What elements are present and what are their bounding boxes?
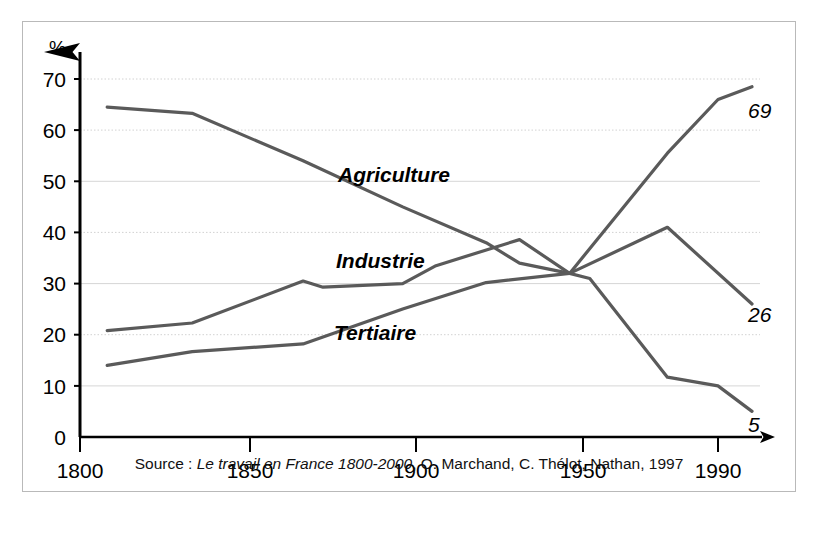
line-chart: % 70 60 50 40 30 20 10 0 1800 1850 1900 … — [0, 0, 820, 533]
y-tick-label-30: 30 — [43, 272, 66, 295]
end-label-tertiaire: 69 — [748, 99, 772, 122]
y-tick-label-60: 60 — [43, 119, 66, 142]
y-tick-label-70: 70 — [43, 68, 66, 91]
y-tick-label-0: 0 — [54, 426, 66, 449]
series-line-tertiaire — [107, 87, 752, 366]
x-axis-arrowhead — [760, 431, 775, 443]
series-label-industrie: Industrie — [336, 249, 425, 272]
source-suffix: , O. Marchand, C. Thélot, Nathan, 1997 — [412, 455, 683, 472]
y-axis-unit-label: % — [49, 37, 66, 58]
y-tick-label-10: 10 — [43, 375, 66, 398]
series-label-agriculture: Agriculture — [337, 163, 450, 186]
source-note: Source : Le travail en France 1800-2000,… — [22, 455, 796, 473]
y-tick-label-40: 40 — [43, 221, 66, 244]
source-title: Le travail en France 1800-2000 — [197, 455, 412, 472]
series-label-tertiaire: Tertiaire — [334, 321, 416, 344]
figure-root: % 70 60 50 40 30 20 10 0 1800 1850 1900 … — [0, 0, 820, 533]
end-label-agriculture: 5 — [748, 413, 760, 436]
y-tick-label-50: 50 — [43, 170, 66, 193]
x-tick-marks — [80, 437, 718, 452]
series-line-industrie — [107, 227, 752, 330]
source-prefix: Source : — [135, 455, 197, 472]
series-line-agriculture — [107, 107, 752, 411]
y-tick-label-20: 20 — [43, 323, 66, 346]
end-label-industrie: 26 — [747, 303, 772, 326]
